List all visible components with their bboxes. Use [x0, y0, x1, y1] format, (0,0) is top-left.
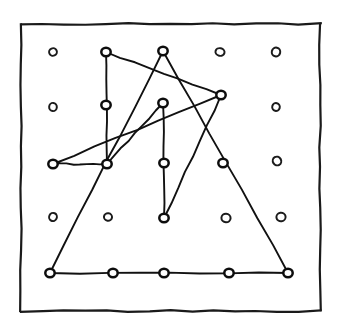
- lattice-point-marked: [45, 269, 54, 277]
- lattice-point-marked: [224, 269, 233, 277]
- lattice-point: [221, 214, 230, 223]
- frame-edge-3: [20, 24, 21, 311]
- frame-edge-0: [22, 23, 321, 25]
- lattice-point: [276, 212, 286, 222]
- lattice-point: [271, 102, 280, 111]
- lattice-point-marked: [108, 269, 117, 277]
- inner-zigzag-path: [107, 103, 164, 218]
- lattice-point-marked: [102, 160, 111, 168]
- lattice-point-marked: [158, 47, 167, 55]
- lattice-point-marked: [159, 269, 168, 277]
- right-diagonal-path: [164, 95, 221, 218]
- lattice-point: [48, 47, 58, 57]
- lattice-point-marked: [101, 48, 110, 56]
- lattice-point-layer: [45, 47, 292, 277]
- frame-edge-2: [21, 310, 320, 312]
- lattice-point-marked: [158, 99, 167, 107]
- lattice-point: [49, 103, 57, 112]
- lattice-point: [271, 155, 283, 167]
- lattice-point: [271, 47, 281, 57]
- lattice-point-marked: [218, 159, 227, 167]
- lattice-point-marked: [159, 214, 168, 222]
- lattice-point: [103, 213, 112, 221]
- lattice-point-marked: [283, 269, 292, 277]
- lattice-point-marked: [48, 160, 57, 168]
- figure-canvas: [0, 0, 340, 327]
- lattice-point: [48, 212, 58, 223]
- lattice-point: [215, 47, 226, 56]
- lattice-point-marked: [159, 159, 168, 167]
- lattice-figure-root: [0, 0, 340, 327]
- lattice-point-marked: [101, 101, 110, 109]
- frame-edge-1: [319, 24, 321, 310]
- lattice-point-marked: [216, 91, 225, 99]
